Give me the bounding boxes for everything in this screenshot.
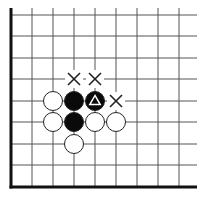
white-stone (65, 135, 84, 154)
black-stone (65, 113, 84, 132)
white-stone (107, 113, 126, 132)
black-stone (65, 92, 84, 111)
white-stone (44, 92, 63, 111)
white-stone (86, 113, 105, 132)
go-board (0, 0, 202, 199)
white-stone (44, 113, 63, 132)
